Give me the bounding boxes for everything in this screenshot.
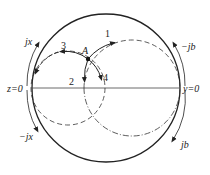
point-a-marker	[86, 57, 90, 61]
smith-chart-diagram: A 1 2 3 4 z=0 y=0 jx −jx −jb jb	[0, 0, 210, 175]
plus-jb-label: jb	[179, 139, 189, 150]
arrow-2-label: 2	[69, 76, 74, 87]
plus-jx-label: jx	[23, 36, 33, 47]
point-a-label: A	[81, 45, 89, 56]
arrow-3-label: 3	[61, 40, 66, 51]
constant-conductance-circle-lower	[84, 88, 180, 136]
arrow-1-label: 1	[105, 28, 110, 39]
constant-conductance-circle-upper	[84, 40, 180, 88]
minus-jx-label: −jx	[19, 131, 34, 142]
z-zero-label: z=0	[6, 83, 23, 94]
arrow-4-label: 4	[103, 72, 108, 83]
y-zero-label: y=0	[182, 83, 199, 94]
minus-jb-label: −jb	[181, 41, 196, 52]
